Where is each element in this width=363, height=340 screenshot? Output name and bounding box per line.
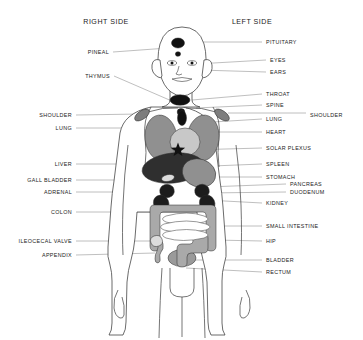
head-outline — [158, 27, 206, 96]
label-ears: EARS — [270, 69, 286, 75]
label-eyes: EYES — [270, 57, 286, 63]
pituitary — [172, 38, 185, 48]
label-bladder: BLADDER — [266, 257, 294, 263]
spine — [178, 111, 187, 126]
label-shoulder-right: SHOULDER — [39, 112, 72, 118]
pineal — [175, 52, 180, 57]
leader-rectum — [186, 268, 262, 272]
header-left-side: LEFT SIDE — [232, 18, 272, 26]
leg-left-inner — [202, 268, 205, 338]
leader-throat — [192, 94, 262, 100]
label-colon: COLON — [51, 209, 72, 215]
arm-inner-left — [236, 145, 242, 255]
label-shoulder-left: SHOULDER — [310, 112, 343, 118]
hand-left — [240, 290, 250, 318]
leader-spleen — [212, 164, 262, 166]
label-pancreas: PANCREAS — [290, 181, 322, 187]
ear-left-outline — [202, 60, 212, 78]
label-pineal: PINEAL — [88, 49, 109, 55]
label-hip: HIP — [266, 238, 276, 244]
label-lung-right: LUNG — [56, 125, 72, 131]
leader-spine — [196, 105, 262, 108]
groin-outline — [170, 268, 194, 297]
label-gall-bladder: GALL BLADDER — [27, 177, 72, 183]
leader-shoulder-right — [76, 114, 140, 115]
label-kidney: KIDNEY — [266, 200, 288, 206]
small-intestine-loop-3 — [163, 230, 209, 241]
label-solar-plexus: SOLAR PLEXUS — [266, 145, 311, 151]
label-rectum: RECTUM — [266, 269, 291, 275]
leader-lung-left — [213, 119, 262, 122]
label-pituitary: PITUITARY — [266, 39, 297, 45]
ear-right-outline — [152, 60, 162, 78]
label-lung-left: LUNG — [266, 116, 282, 122]
anatomy-diagram: RIGHT SIDE LEFT SIDE — [0, 0, 363, 340]
throat — [170, 95, 190, 105]
heart — [170, 128, 200, 156]
anatomy-chart-root: RIGHT SIDE LEFT SIDE — [0, 0, 363, 340]
label-spine: SPINE — [266, 102, 284, 108]
label-spleen: SPLEEN — [266, 161, 289, 167]
label-adrenal: ADRENAL — [44, 189, 72, 195]
label-liver: LIVER — [55, 161, 72, 167]
leg-right-inner — [159, 268, 162, 338]
small-intestine-loops — [161, 213, 211, 241]
label-appendix: APPENDIX — [42, 252, 72, 258]
label-duodenum: DUODENUM — [290, 189, 325, 195]
header-right-side: RIGHT SIDE — [83, 18, 128, 26]
label-ileocecal-valve: ILEOCECAL VALVE — [19, 238, 72, 244]
label-heart: HEART — [266, 129, 286, 135]
label-small-intestine: SMALL INTESTINE — [266, 223, 318, 229]
pupil-right — [171, 62, 174, 65]
label-thymus: THYMUS — [85, 73, 110, 79]
label-stomach: STOMACH — [266, 174, 295, 180]
pupil-left — [191, 62, 194, 65]
label-throat: THROAT — [266, 91, 290, 97]
ileocecal-valve — [150, 235, 162, 246]
